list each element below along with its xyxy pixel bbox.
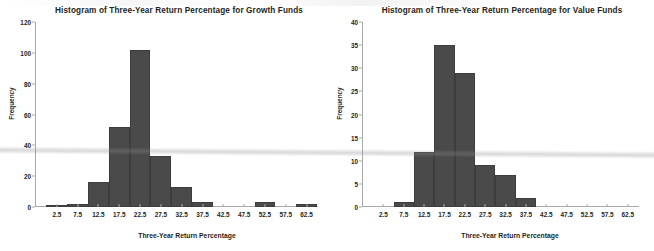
- x-tick-mark: [56, 204, 57, 207]
- y-tick-mark: [32, 176, 35, 177]
- x-tick-mark: [607, 204, 608, 207]
- x-tick-mark: [140, 204, 141, 207]
- bars-layer-growth: [35, 22, 318, 207]
- histogram-bar: [455, 73, 475, 207]
- x-tick-mark: [525, 204, 526, 207]
- x-tick-label: 57.5: [601, 211, 613, 218]
- x-tick-label: 17.5: [438, 211, 450, 218]
- y-tick-mark: [359, 114, 362, 115]
- x-tick-mark: [546, 204, 547, 207]
- x-tick-label: 47.5: [560, 211, 572, 218]
- y-tick-mark: [359, 22, 362, 23]
- y-tick-mark: [359, 137, 362, 138]
- x-tick-label: 17.5: [113, 211, 125, 218]
- x-tick-mark: [403, 204, 404, 207]
- x-tick-label: 7.5: [73, 211, 82, 218]
- y-tick-mark: [359, 207, 362, 208]
- x-tick-mark: [505, 204, 506, 207]
- y-tick-mark: [32, 22, 35, 23]
- x-tick-label: 27.5: [155, 211, 167, 218]
- chart-title-value-funds: Histogram of Three-Year Return Percentag…: [330, 6, 654, 15]
- y-tick-mark: [359, 68, 362, 69]
- x-tick-mark: [444, 204, 445, 207]
- x-tick-label: 22.5: [459, 211, 471, 218]
- x-tick-label: 37.5: [520, 211, 532, 218]
- x-tick-label: 42.5: [217, 211, 229, 218]
- x-tick-label: 57.5: [280, 211, 292, 218]
- histogram-bar: [130, 50, 151, 207]
- x-tick-label: 32.5: [175, 211, 187, 218]
- x-tick-mark: [464, 204, 465, 207]
- x-tick-label: 62.5: [300, 211, 312, 218]
- x-tick-mark: [627, 204, 628, 207]
- y-tick-mark: [32, 52, 35, 53]
- histogram-bar: [434, 45, 454, 207]
- x-tick-label: 37.5: [196, 211, 208, 218]
- x-tick-mark: [223, 204, 224, 207]
- x-tick-mark: [77, 204, 78, 207]
- y-tick-mark: [359, 45, 362, 46]
- x-tick-label: 2.5: [52, 211, 61, 218]
- x-tick-mark: [244, 204, 245, 207]
- histogram-bar: [495, 175, 515, 207]
- y-tick-mark: [359, 183, 362, 184]
- bars-layer-value: [362, 22, 639, 207]
- x-tick-mark: [485, 204, 486, 207]
- x-tick-mark: [383, 204, 384, 207]
- x-tick-mark: [306, 204, 307, 207]
- histogram-bar: [109, 127, 130, 207]
- x-tick-mark: [98, 204, 99, 207]
- x-tick-label: 12.5: [418, 211, 430, 218]
- x-tick-label: 62.5: [622, 211, 634, 218]
- x-tick-mark: [424, 204, 425, 207]
- x-tick-label: 32.5: [499, 211, 511, 218]
- x-tick-label: 47.5: [238, 211, 250, 218]
- y-axis-label-growth: Frequency: [8, 79, 15, 129]
- x-tick-mark: [566, 204, 567, 207]
- y-axis-label-value: Frequency: [336, 79, 343, 129]
- x-tick-label: 42.5: [540, 211, 552, 218]
- chart-title-growth-funds: Histogram of Three-Year Return Percentag…: [0, 6, 344, 15]
- x-tick-label: 12.5: [92, 211, 104, 218]
- x-tick-label: 2.5: [379, 211, 388, 218]
- y-tick-mark: [32, 145, 35, 146]
- y-tick-mark: [32, 207, 35, 208]
- x-tick-label: 27.5: [479, 211, 491, 218]
- x-axis-label-value: Three-Year Return Percentage: [330, 232, 654, 239]
- histogram-bar: [475, 165, 495, 207]
- x-axis-label-growth: Three-Year Return Percentage: [0, 232, 352, 239]
- y-tick-mark: [359, 160, 362, 161]
- x-tick-mark: [587, 204, 588, 207]
- y-tick-mark: [359, 91, 362, 92]
- plot-area-growth: 0204060801001202.57.512.517.522.527.532.…: [35, 22, 318, 207]
- plot-area-value: 05101520253035402.57.512.517.522.527.532…: [362, 22, 639, 207]
- y-tick-mark: [32, 114, 35, 115]
- chart-panel-value-funds: Histogram of Three-Year Return Percentag…: [330, 0, 654, 251]
- x-tick-mark: [181, 204, 182, 207]
- x-tick-label: 52.5: [581, 211, 593, 218]
- x-tick-mark: [264, 204, 265, 207]
- histogram-bar: [150, 156, 171, 207]
- histogram-figure: Histogram of Three-Year Return Percentag…: [0, 0, 654, 251]
- x-tick-mark: [160, 204, 161, 207]
- histogram-bar: [414, 152, 434, 208]
- x-tick-mark: [202, 204, 203, 207]
- x-tick-mark: [119, 204, 120, 207]
- y-tick-mark: [32, 83, 35, 84]
- chart-panel-growth-funds: Histogram of Three-Year Return Percentag…: [0, 0, 330, 251]
- x-tick-label: 7.5: [399, 211, 408, 218]
- x-tick-mark: [285, 204, 286, 207]
- x-tick-label: 52.5: [259, 211, 271, 218]
- x-tick-label: 22.5: [134, 211, 146, 218]
